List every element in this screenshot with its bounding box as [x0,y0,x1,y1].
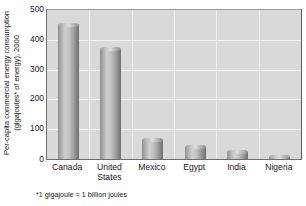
gridline-vertical [259,10,260,159]
y-axis-title: Per-capita commercial energy consumption… [2,10,21,154]
gridline-vertical [174,10,175,159]
x-axis-label-canada: Canada [46,162,88,172]
gridline-vertical [89,10,90,159]
y-axis-tick-label: 400 [22,35,44,43]
x-axis-label-mexico: Mexico [131,162,173,172]
y-axis-title-line2: (gigajoules* of energy), 2000 [12,10,22,154]
energy-consumption-bar-chart: Per-capita commercial energy consumption… [0,0,306,206]
bar-top-cap [58,23,79,27]
bar-nigeria [269,157,290,159]
x-axis-tick-labels: CanadaUnitedStatesMexicoEgyptIndiaNigeri… [46,162,302,188]
x-axis-label-line: Canada [52,162,82,172]
x-axis-label-line: United [97,162,122,172]
plot-area [46,9,302,160]
x-axis-label-line: Egypt [183,162,205,172]
bar-top-cap [142,138,163,142]
bar-top-cap [227,150,248,154]
x-axis-label-united-states: UnitedStates [88,162,130,182]
bar-top-cap [185,145,206,149]
x-axis-label-india: India [215,162,257,172]
bar-top-cap [269,155,290,159]
bar-egypt [185,147,206,159]
y-axis-title-container: Per-capita commercial energy consumption… [0,0,24,165]
bar-india [227,152,248,159]
x-axis-label-line: States [88,172,130,182]
bar-top-cap [100,47,121,51]
y-axis-tick-label: 500 [22,5,44,13]
x-axis-label-egypt: Egypt [173,162,215,172]
gridline-vertical [132,10,133,159]
chart-footnote: *1 gigajoule = 1 billion joules [36,191,127,199]
x-axis-label-line: Nigeria [265,162,292,172]
bar-canada [58,25,79,159]
x-axis-label-line: Mexico [138,162,165,172]
x-axis-label-nigeria: Nigeria [258,162,300,172]
bar-united-states [100,49,121,159]
y-axis-zero-label: 0 [22,155,44,163]
y-axis-title-line1: Per-capita commercial energy consumption [2,10,11,154]
y-axis-tick-label: 300 [22,64,44,72]
gridline-vertical [216,10,217,159]
y-axis-tick-label: 200 [22,94,44,102]
y-axis-tick-labels: 500400300200100 [22,8,44,160]
bar-mexico [142,140,163,159]
y-axis-tick-label: 100 [22,124,44,132]
x-axis-label-line: India [227,162,246,172]
